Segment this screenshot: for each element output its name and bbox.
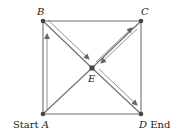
label-b: B (36, 6, 44, 17)
label-d-end: D End (138, 119, 171, 130)
arrow-c-to-e (101, 29, 137, 63)
label-a: A (41, 119, 49, 130)
label-start-a: Start A (13, 119, 49, 130)
node-a (41, 112, 46, 117)
path-arrows (47, 20, 137, 110)
graph-diagram: B C E Start A D End (0, 0, 178, 138)
label-e: E (87, 73, 96, 84)
node-d (139, 112, 144, 117)
edge-d-e (92, 68, 141, 114)
label-c: C (141, 6, 149, 17)
label-d: D (138, 119, 147, 130)
node-e (90, 66, 95, 71)
edge-a-e (43, 68, 92, 114)
edge-c-e (92, 21, 141, 68)
node-b (41, 19, 46, 24)
arrow-e-to-d (99, 69, 137, 105)
node-c (139, 19, 144, 24)
label-start-prefix: Start (13, 119, 42, 130)
label-end-suffix: End (147, 119, 171, 130)
edge-b-e (43, 21, 92, 68)
arrow-b-to-e (48, 20, 89, 59)
arrow-e-to-c (96, 28, 132, 62)
